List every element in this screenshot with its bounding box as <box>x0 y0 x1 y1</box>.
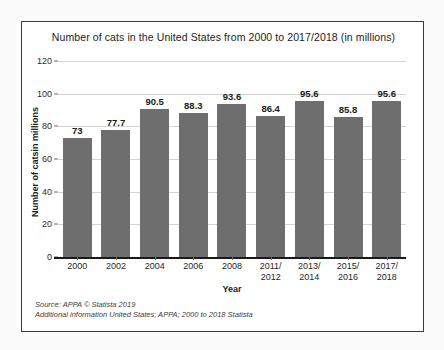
screenshot-root: Number of cats in the United States from… <box>0 0 444 350</box>
y-axis-title: Number of catsin millions <box>28 82 42 242</box>
bar-value-label: 95.6 <box>377 88 396 99</box>
footnote-source: Source: APPA © Statista 2019 <box>35 300 253 310</box>
x-axis-tick-mark <box>271 255 272 260</box>
bar <box>295 101 324 257</box>
x-axis-tick-label: 2011/2012 <box>251 261 290 283</box>
bar-value-label: 86.4 <box>261 103 280 114</box>
x-axis-tick-line: 2011/ <box>251 261 290 272</box>
bar-value-label: 88.3 <box>184 100 203 111</box>
bar-value-label: 93.6 <box>223 91 242 102</box>
x-axis-tick-line: 2002 <box>97 261 136 272</box>
x-axis-tick-line: 2000 <box>58 261 97 272</box>
y-axis-tick-label: 20 <box>42 219 52 229</box>
x-axis-ticks: 200020022004200620082011/20122013/201420… <box>58 261 406 283</box>
x-axis-line <box>54 257 406 259</box>
y-axis-tick-label: 80 <box>42 121 52 131</box>
x-axis-tick-label: 2015/2016 <box>329 261 368 283</box>
bar <box>101 130 130 257</box>
x-axis-tick-label: 2008 <box>213 261 252 283</box>
x-axis-tick-line: 2012 <box>251 272 290 283</box>
x-axis-tick-label: 2013/2014 <box>290 261 329 283</box>
x-axis-tick-line: 2006 <box>174 261 213 272</box>
bar <box>63 138 92 257</box>
x-axis-tick-mark <box>387 255 388 260</box>
bar-value-label: 77.7 <box>107 117 126 128</box>
x-axis-tick-line: 2015/ <box>329 261 368 272</box>
chart-panel: Number of cats in the United States from… <box>21 21 424 332</box>
bar-slot: 88.3 <box>174 61 213 257</box>
bar <box>217 104 246 257</box>
x-axis-tick-label: 2000 <box>58 261 97 283</box>
bar-value-label: 73 <box>72 125 83 136</box>
x-axis-tick-line: 2013/ <box>290 261 329 272</box>
x-axis-tick-line: 2004 <box>135 261 174 272</box>
bar <box>140 109 169 257</box>
bar <box>334 117 363 257</box>
bar-slot: 95.6 <box>367 61 406 257</box>
bar-slot: 93.6 <box>213 61 252 257</box>
x-axis-tick-label: 2006 <box>174 261 213 283</box>
x-axis-tick-mark <box>77 255 78 260</box>
chart-footnote: Source: APPA © Statista 2019 Additional … <box>35 300 253 319</box>
y-axis-tick-label: 120 <box>37 56 52 66</box>
x-axis-tick-label: 2004 <box>135 261 174 283</box>
y-axis-tick-label: 100 <box>37 89 52 99</box>
y-axis-title-label: Number of catsin millions <box>30 107 40 217</box>
x-axis-tick-mark <box>232 255 233 260</box>
bar-value-label: 90.5 <box>145 96 164 107</box>
chart-title: Number of cats in the United States from… <box>32 31 415 43</box>
x-axis-tick-mark <box>193 255 194 260</box>
y-axis-tick-label: 40 <box>42 187 52 197</box>
x-axis-tick-mark <box>309 255 310 260</box>
bar-value-label: 95.6 <box>300 88 319 99</box>
bar-slot: 95.6 <box>290 61 329 257</box>
bar-slot: 73 <box>58 61 97 257</box>
bar-series: 7377.790.588.393.686.495.685.895.6 <box>58 61 406 257</box>
bar <box>256 116 285 257</box>
x-axis-tick-label: 2002 <box>97 261 136 283</box>
x-axis-tick-mark <box>116 255 117 260</box>
bar <box>179 113 208 257</box>
x-axis-tick-label: 2017/2018 <box>367 261 406 283</box>
plot-area: 020406080100120 7377.790.588.393.686.495… <box>58 61 406 257</box>
bar-slot: 90.5 <box>135 61 174 257</box>
x-axis-tick-line: 2016 <box>329 272 368 283</box>
bar-slot: 85.8 <box>329 61 368 257</box>
x-axis-tick-line: 2018 <box>367 272 406 283</box>
x-axis-tick-mark <box>348 255 349 260</box>
footnote-additional-info: Additional information United States; AP… <box>35 310 253 320</box>
x-axis-title: Year <box>58 284 406 294</box>
bar-value-label: 85.8 <box>339 104 358 115</box>
bar <box>372 101 401 257</box>
y-axis-tick-label: 60 <box>42 154 52 164</box>
x-axis-tick-mark <box>155 255 156 260</box>
x-axis-tick-line: 2008 <box>213 261 252 272</box>
bar-slot: 86.4 <box>251 61 290 257</box>
bar-slot: 77.7 <box>97 61 136 257</box>
y-axis-tick-label: 0 <box>47 252 52 262</box>
x-axis-tick-line: 2014 <box>290 272 329 283</box>
x-axis-tick-line: 2017/ <box>367 261 406 272</box>
